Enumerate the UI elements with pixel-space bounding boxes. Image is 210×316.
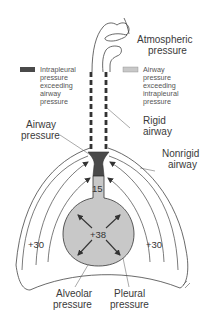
legend-light-text: Airway pressure exceeding intrapleural p…: [143, 65, 181, 106]
pleural-pressure-label: Pleural pressure: [110, 288, 149, 310]
atmospheric-pressure-label: Atmospheric pressure: [137, 34, 195, 56]
airway-pressure-label: Airway pressure: [21, 119, 60, 141]
rigid-airway-label: Rigid airway: [143, 115, 172, 137]
upper-airway-outline: [92, 18, 129, 72]
legend-swatch-light: [123, 67, 138, 72]
alveolar-pressure-value: +38: [90, 229, 106, 240]
equal-pressure-point-diagram: Intrapleural pressure exceeding airway p…: [0, 0, 210, 316]
alveolar-pressure-label: Alveolar pressure: [53, 288, 95, 310]
nonrigid-airway-label: Nonrigid airway: [162, 148, 202, 170]
rigid-airway-walls: [91, 72, 106, 150]
pleural-pressure-value-left: +30: [28, 239, 44, 250]
legend-dark-text: Intrapleural pressure exceeding airway p…: [40, 65, 78, 106]
pleural-pressure-value-right: +30: [146, 239, 162, 250]
legend-swatch-dark: [20, 67, 35, 72]
airway-pressure-value: 15: [92, 183, 103, 194]
